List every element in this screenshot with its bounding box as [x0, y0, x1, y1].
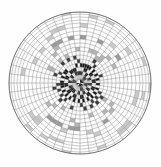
polar-grid-chart	[0, 0, 161, 167]
polar-mesh-figure	[0, 0, 161, 167]
